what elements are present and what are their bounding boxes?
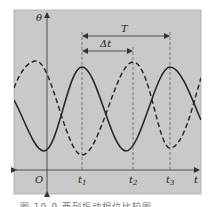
theta-axis-label: θ <box>36 12 42 23</box>
origin-label: O <box>35 174 43 185</box>
delta-t-label: Δt <box>99 38 112 49</box>
figure-caption: 图 10-9 两列振动相位比较图 <box>20 200 200 207</box>
phase-comparison-figure: θ T Δt O t1 t2 t3 t <box>0 0 213 207</box>
